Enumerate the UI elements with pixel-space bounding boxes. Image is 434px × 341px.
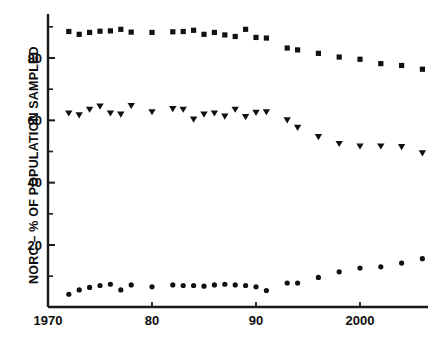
marker-circle: [337, 269, 342, 274]
x-tick-label: 80: [145, 313, 159, 328]
marker-triangle: [221, 113, 228, 119]
marker-triangle: [169, 106, 176, 112]
x-tick-label: 1970: [34, 313, 63, 328]
marker-square: [129, 30, 134, 35]
marker-triangle: [96, 104, 103, 110]
series-top-series: [66, 27, 425, 72]
marker-triangle: [232, 107, 239, 113]
marker-triangle: [336, 141, 343, 147]
marker-square: [337, 54, 342, 59]
marker-circle: [420, 256, 425, 261]
marker-circle: [108, 282, 113, 287]
marker-square: [399, 63, 404, 68]
marker-square: [316, 51, 321, 56]
marker-circle: [285, 280, 290, 285]
marker-square: [357, 57, 362, 62]
marker-circle: [181, 283, 186, 288]
marker-triangle: [211, 110, 218, 116]
marker-triangle: [190, 117, 197, 123]
marker-triangle: [107, 110, 114, 116]
marker-circle: [222, 282, 227, 287]
marker-triangle: [377, 143, 384, 149]
marker-circle: [233, 282, 238, 287]
marker-square: [212, 30, 217, 35]
marker-square: [87, 30, 92, 35]
marker-circle: [295, 280, 300, 285]
marker-triangle: [263, 109, 270, 115]
marker-square: [420, 67, 425, 72]
marker-circle: [170, 282, 175, 287]
marker-square: [295, 47, 300, 52]
marker-triangle: [315, 134, 322, 140]
marker-circle: [97, 283, 102, 288]
marker-circle: [243, 283, 248, 288]
x-tick-label: 90: [249, 313, 263, 328]
marker-square: [181, 29, 186, 34]
axes: [48, 14, 428, 307]
marker-square: [66, 29, 71, 34]
series-middle-series: [65, 103, 426, 157]
marker-square: [77, 32, 82, 37]
data-series: [65, 27, 426, 297]
marker-circle: [316, 275, 321, 280]
marker-square: [191, 28, 196, 33]
marker-triangle: [148, 109, 155, 115]
y-tick-label: 60: [28, 113, 42, 128]
marker-square: [170, 29, 175, 34]
marker-circle: [253, 284, 258, 289]
marker-square: [378, 61, 383, 66]
marker-circle: [66, 292, 71, 297]
marker-circle: [77, 287, 82, 292]
marker-triangle: [398, 144, 405, 150]
marker-square: [264, 35, 269, 40]
y-axis-ticks: 20406080: [28, 27, 55, 276]
marker-circle: [201, 284, 206, 289]
marker-circle: [149, 284, 154, 289]
marker-triangle: [86, 107, 93, 113]
x-tick-label: 2000: [346, 313, 375, 328]
marker-circle: [357, 265, 362, 270]
marker-triangle: [294, 125, 301, 131]
marker-triangle: [117, 112, 124, 118]
marker-square: [118, 27, 123, 32]
marker-triangle: [76, 112, 83, 118]
marker-square: [108, 28, 113, 33]
marker-circle: [129, 282, 134, 287]
marker-circle: [264, 288, 269, 293]
marker-square: [285, 45, 290, 50]
marker-square: [97, 29, 102, 34]
series-bottom-series: [66, 256, 425, 297]
y-tick-label: 80: [28, 51, 42, 66]
marker-triangle: [180, 107, 187, 113]
scatter-plot: 20406080 197080902000: [0, 0, 434, 341]
marker-square: [201, 32, 206, 37]
y-tick-label: 40: [28, 175, 42, 190]
marker-triangle: [242, 114, 249, 120]
marker-square: [253, 35, 258, 40]
y-tick-label: 20: [28, 238, 42, 253]
marker-triangle: [65, 110, 72, 116]
marker-triangle: [356, 143, 363, 149]
marker-circle: [399, 260, 404, 265]
marker-circle: [87, 285, 92, 290]
marker-circle: [118, 287, 123, 292]
marker-triangle: [200, 112, 207, 118]
marker-circle: [212, 282, 217, 287]
marker-triangle: [419, 150, 426, 156]
marker-square: [222, 32, 227, 37]
chart-container: NORC – % OF POPULATION SAMPLED 20406080 …: [0, 0, 434, 341]
marker-triangle: [252, 110, 259, 116]
marker-square: [243, 27, 248, 32]
marker-circle: [378, 264, 383, 269]
marker-triangle: [128, 103, 135, 109]
marker-circle: [191, 283, 196, 288]
marker-triangle: [284, 117, 291, 123]
marker-square: [233, 34, 238, 39]
marker-square: [149, 30, 154, 35]
